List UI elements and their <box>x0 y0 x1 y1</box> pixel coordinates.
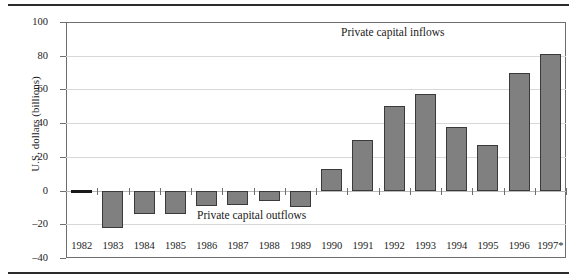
x-tick-mark <box>191 188 192 195</box>
x-tick-mark <box>97 188 98 195</box>
bar <box>321 169 342 191</box>
y-tick-mark <box>60 258 66 259</box>
x-axis-year-label: 1992 <box>379 240 410 251</box>
bar <box>509 73 530 191</box>
bar <box>415 94 436 190</box>
bottom-rule <box>8 272 569 274</box>
x-axis-year-label: 1985 <box>160 240 191 251</box>
x-tick-mark <box>285 188 286 195</box>
bar <box>290 191 311 208</box>
x-axis-year-label: 1989 <box>285 240 316 251</box>
y-tick-label: –40 <box>4 253 48 263</box>
y-axis-title: U.S. dollars (billions) <box>29 29 41 219</box>
x-axis-year-label: 1986 <box>191 240 222 251</box>
bar <box>165 191 186 215</box>
x-axis-year-label: 1984 <box>129 240 160 251</box>
bars-group <box>66 22 566 258</box>
bar <box>446 127 467 191</box>
y-tick-label: 100 <box>4 17 48 27</box>
bar <box>196 191 217 206</box>
bar <box>134 191 155 215</box>
x-tick-mark <box>410 188 411 195</box>
x-axis-year-label: 1987 <box>222 240 253 251</box>
x-tick-mark <box>160 188 161 195</box>
y-tick-label: –20 <box>4 219 48 229</box>
x-axis-year-label: 1982 <box>66 240 97 251</box>
x-tick-mark <box>316 188 317 195</box>
x-tick-mark <box>472 188 473 195</box>
x-axis-year-label: 1995 <box>472 240 503 251</box>
y-tick-label: 0 <box>4 186 48 196</box>
bar <box>102 191 123 228</box>
y-tick-label: 60 <box>4 84 48 94</box>
y-tick-label: 20 <box>4 152 48 162</box>
x-axis-year-label: 1997* <box>535 240 566 251</box>
x-tick-mark <box>566 188 567 195</box>
x-tick-mark <box>347 188 348 195</box>
x-tick-mark <box>254 188 255 195</box>
x-tick-mark <box>535 188 536 195</box>
x-axis-year-label: 1991 <box>347 240 378 251</box>
x-axis-year-label: 1996 <box>504 240 535 251</box>
x-tick-mark <box>441 188 442 195</box>
x-tick-mark <box>504 188 505 195</box>
x-tick-mark <box>129 188 130 195</box>
bar <box>477 145 498 191</box>
x-axis-year-label: 1990 <box>316 240 347 251</box>
x-tick-mark <box>222 188 223 195</box>
annotation-private-capital-inflows: Private capital inflows <box>341 26 444 38</box>
bar <box>384 106 405 190</box>
bar <box>540 54 561 191</box>
bar <box>71 190 92 193</box>
bar <box>227 191 248 205</box>
x-axis-year-label: 1988 <box>254 240 285 251</box>
bar <box>259 191 280 201</box>
y-tick-label: 80 <box>4 51 48 61</box>
annotation-private-capital-outflows: Private capital outflows <box>197 209 306 221</box>
top-rule <box>8 4 569 6</box>
y-tick-label: 40 <box>4 118 48 128</box>
x-axis-year-label: 1993 <box>410 240 441 251</box>
x-axis-year-label: 1994 <box>441 240 472 251</box>
x-axis-year-label: 1983 <box>97 240 128 251</box>
x-tick-mark <box>379 188 380 195</box>
figure-bar-chart-private-capital-flows: 100806040200–20–40 U.S. dollars (billion… <box>0 0 577 280</box>
bar <box>352 140 373 191</box>
